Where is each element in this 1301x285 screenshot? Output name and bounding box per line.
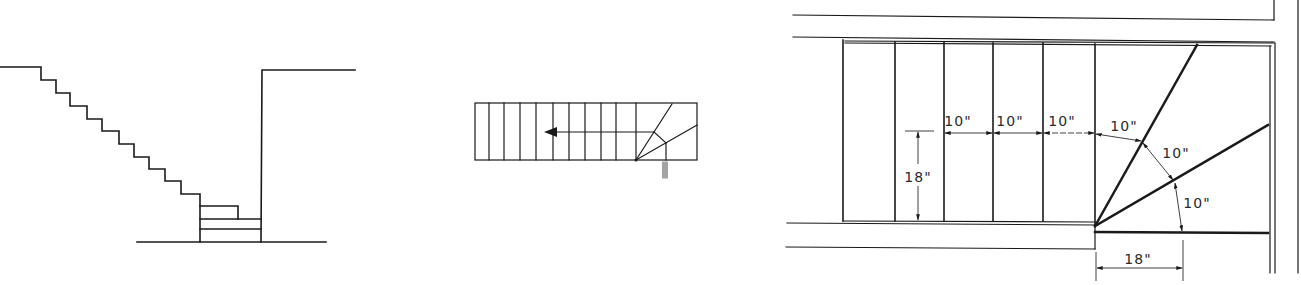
walkline-vertical-dimension: 18"	[904, 131, 934, 220]
winder-step-top	[200, 206, 238, 219]
winder-center-point	[635, 159, 638, 162]
direction-arrow-icon	[544, 127, 557, 137]
walkline-vertical-label: 18"	[904, 169, 931, 185]
stringer-top-2	[845, 43, 1271, 46]
walkline-horizontal-label: 18"	[1124, 251, 1151, 267]
tread-3-label: 10"	[1048, 113, 1075, 129]
winder-3-label: 10"	[1183, 195, 1210, 211]
drawing-canvas: 10" 10" 10" 10" 10" 10" 18" 18"	[0, 0, 1301, 285]
stair-plan-detail: 10" 10" 10" 10" 10" 10" 18" 18"	[786, 0, 1298, 281]
tread-dimensions: 10" 10" 10"	[944, 113, 1094, 133]
stair-plan-small	[475, 103, 697, 178]
stringer-bottom-1	[843, 221, 1095, 222]
stair-elevation	[0, 67, 355, 242]
wall-line	[261, 70, 355, 242]
stair-profile	[0, 67, 200, 242]
tread-2-label: 10"	[996, 113, 1023, 129]
stringer-bottom-2	[787, 223, 1095, 225]
break-marks	[663, 162, 667, 178]
winder-treads	[1095, 45, 1268, 233]
lower-wall	[786, 247, 1095, 249]
tread-1-label: 10"	[944, 113, 971, 129]
upper-wall-outer	[793, 15, 1274, 20]
walk-line	[544, 127, 666, 160]
winder-2-label: 10"	[1162, 145, 1189, 161]
winder-1-label: 10"	[1110, 118, 1137, 134]
walkline-horizontal-dimension: 18"	[1096, 240, 1183, 281]
